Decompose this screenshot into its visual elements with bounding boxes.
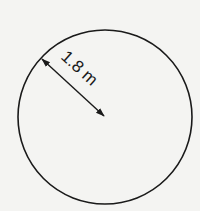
radius-label: 1.8 m — [57, 47, 101, 90]
circle-outline — [18, 30, 192, 204]
circle-diagram: 1.8 m — [0, 0, 200, 211]
